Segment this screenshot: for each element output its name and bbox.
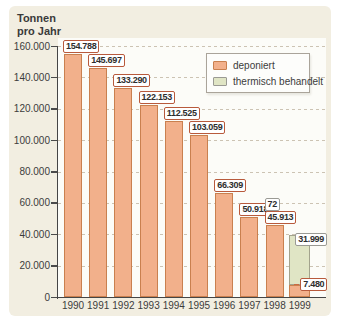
- value-label-45.913: 45.913: [265, 211, 297, 224]
- value-label-103.059: 103.059: [189, 121, 225, 134]
- x-tick-label-1999: 1999: [285, 300, 315, 311]
- bar-1995-deponiert: [190, 135, 208, 297]
- value-label-133.290: 133.290: [113, 74, 149, 87]
- y-axis-line: [57, 46, 59, 299]
- value-label-145.697: 145.697: [88, 54, 124, 67]
- y-tick-label-40.000: 40.000: [8, 229, 50, 240]
- value-label-leader-line: [294, 284, 299, 286]
- value-label-112.525: 112.525: [164, 107, 200, 120]
- y-tick-label-0: 0: [8, 292, 50, 303]
- y-tick-label-60.000: 60.000: [8, 197, 50, 208]
- x-axis-line: [57, 297, 327, 299]
- thermisch-behandelt-swatch-icon: [213, 77, 227, 86]
- legend-item-thermisch-behandelt: thermisch behandelt: [213, 74, 309, 88]
- legend-item-deponiert: deponiert: [213, 58, 309, 72]
- y-tick-label-20.000: 20.000: [8, 260, 50, 271]
- bar-1994-deponiert: [165, 121, 183, 298]
- y-tick-label-160.000: 160.000: [8, 41, 50, 52]
- legend: deponiert thermisch behandelt: [206, 53, 310, 93]
- bar-1996-deponiert: [215, 193, 233, 297]
- bar-1991-deponiert: [89, 68, 107, 297]
- deponiert-swatch-icon: [213, 61, 227, 70]
- value-label-72: 72: [265, 198, 280, 211]
- value-label-122.153: 122.153: [139, 91, 175, 104]
- y-tick-label-100.000: 100.000: [8, 135, 50, 146]
- y-axis-title: Tonnen pro Jahr: [17, 12, 61, 38]
- bar-1998-deponiert: [266, 225, 284, 297]
- value-label-66.309: 66.309: [214, 179, 246, 192]
- y-tick-label-140.000: 140.000: [8, 72, 50, 83]
- y-tick-label-120.000: 120.000: [8, 103, 50, 114]
- bar-1993-deponiert: [140, 105, 158, 297]
- value-label-154.788: 154.788: [63, 40, 99, 53]
- bar-1997-deponiert: [240, 217, 258, 297]
- bar-1992-deponiert: [114, 88, 132, 297]
- y-axis-title-line2: pro Jahr: [17, 25, 61, 38]
- value-label-7.480: 7.480: [300, 278, 327, 291]
- legend-label-thermisch-behandelt: thermisch behandelt: [233, 76, 323, 87]
- value-label-31.999: 31.999: [295, 233, 327, 246]
- legend-label-deponiert: deponiert: [233, 60, 275, 71]
- y-axis-title-line1: Tonnen: [17, 12, 61, 25]
- y-tick-label-80.000: 80.000: [8, 166, 50, 177]
- bar-1990-deponiert: [64, 54, 82, 297]
- chart-figure: Tonnen pro Jahr 020.00040.00060.00080.00…: [0, 0, 337, 327]
